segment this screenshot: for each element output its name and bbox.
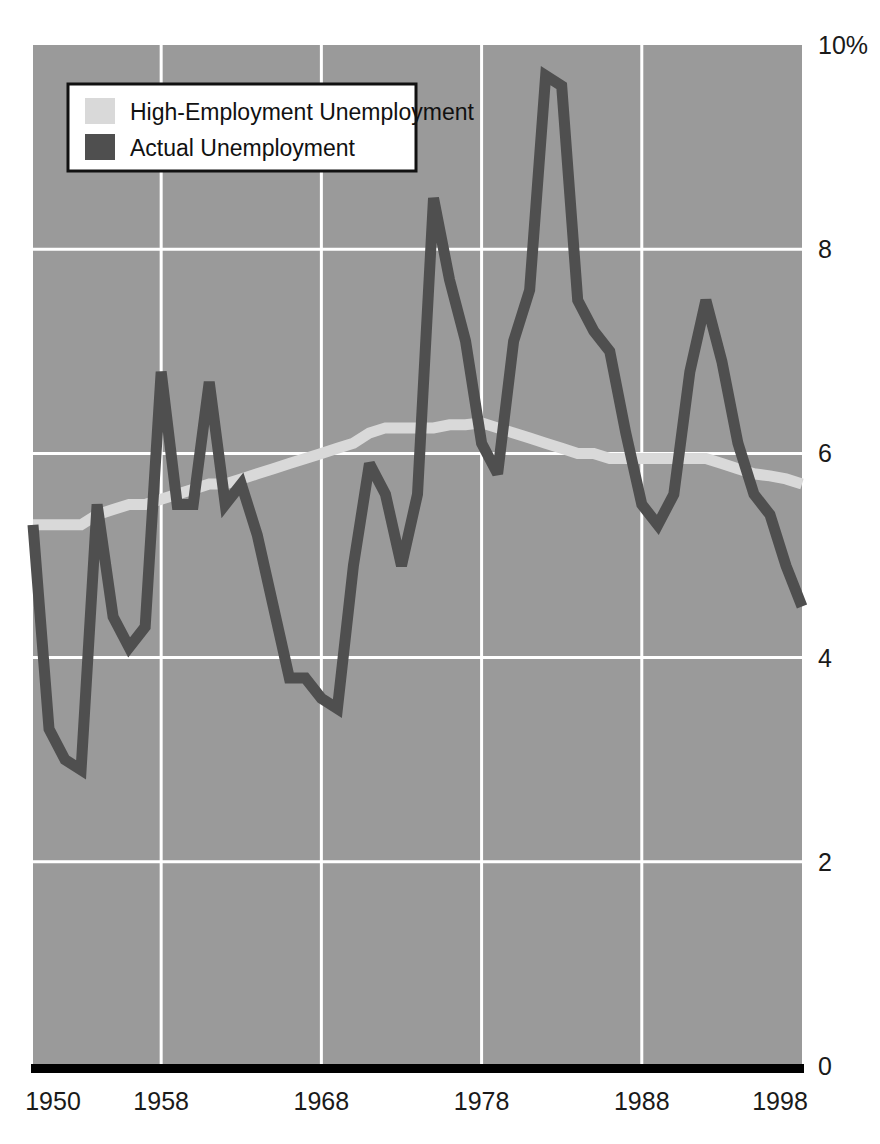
legend-swatch-actual xyxy=(85,134,115,160)
y-axis-tick-labels: 10%86420 xyxy=(818,31,868,1080)
x-tick-label-1998: 1998 xyxy=(752,1087,808,1115)
x-axis-tick-labels: 195019581968197819881998 xyxy=(25,1087,808,1115)
y-tick-label-10: 10% xyxy=(818,31,868,59)
y-tick-label-2: 2 xyxy=(818,848,832,876)
legend-swatch-high-employment xyxy=(85,98,115,124)
x-tick-label-1978: 1978 xyxy=(454,1087,510,1115)
x-tick-label-1958: 1958 xyxy=(133,1087,189,1115)
y-tick-label-6: 6 xyxy=(818,439,832,467)
legend-label-high-employment: High-Employment Unemployment xyxy=(130,99,474,125)
legend-label-actual: Actual Unemployment xyxy=(130,135,356,161)
x-tick-label-1950: 1950 xyxy=(25,1087,81,1115)
x-tick-label-1968: 1968 xyxy=(294,1087,350,1115)
x-tick-label-1988: 1988 xyxy=(614,1087,670,1115)
y-tick-label-4: 4 xyxy=(818,644,832,672)
chart-legend: High-Employment Unemployment Actual Unem… xyxy=(68,84,474,171)
y-tick-label-8: 8 xyxy=(818,235,832,263)
y-tick-label-0: 0 xyxy=(818,1052,832,1080)
unemployment-chart-figure: 10%86420 195019581968197819881998 High-E… xyxy=(0,0,880,1144)
chart-canvas: 10%86420 195019581968197819881998 High-E… xyxy=(0,0,880,1144)
axis-baseline xyxy=(31,1064,804,1073)
